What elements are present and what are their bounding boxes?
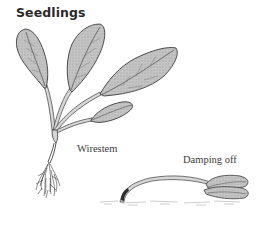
leaf-center (67, 24, 105, 92)
collapsed-leaves (204, 175, 248, 199)
lesion (121, 188, 129, 201)
seedlings-illustration (0, 0, 260, 230)
damping-off-seedling (100, 175, 248, 205)
collapsed-stem (120, 176, 211, 202)
leaf-right (100, 47, 177, 96)
wirestem-constriction (48, 143, 56, 163)
petioles (44, 85, 101, 133)
main-stem (52, 130, 58, 143)
leaf-lower (91, 102, 133, 123)
wirestem-label: Wirestem (77, 143, 117, 154)
wirestem-seedling (16, 24, 177, 198)
roots (36, 162, 60, 198)
damping-off-label: Damping off (183, 154, 237, 165)
leaf-left (16, 29, 47, 88)
